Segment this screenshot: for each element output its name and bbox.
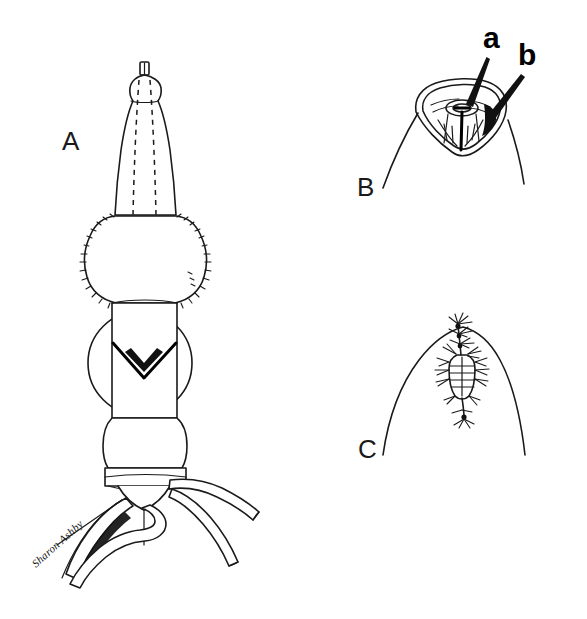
illustration-canvas: Sharon Ashby A (0, 0, 587, 619)
figure-plate: Sharon Ashby A (0, 0, 587, 619)
panel-a-drawing: Sharon Ashby A (29, 62, 259, 588)
apical-tip (140, 62, 149, 75)
leader-line-b (489, 74, 525, 119)
apex-wall-left (383, 113, 418, 188)
callout-leaders (466, 57, 525, 119)
panel-c-drawing: C (358, 313, 525, 464)
panel-letter-a: A (62, 126, 80, 156)
head-capsule (115, 75, 176, 215)
callout-label-a: a (483, 21, 500, 54)
attached-organism (435, 313, 489, 428)
villous-midbody (80, 214, 211, 308)
panel-letter-c: C (358, 434, 377, 464)
panel-b-drawing: a b B (357, 21, 536, 202)
apex-outline-c (383, 327, 525, 455)
organism-posterior (461, 398, 466, 420)
lower-body-segment (103, 418, 187, 468)
panel-letter-b: B (357, 172, 374, 202)
tail-cylinder-upper (112, 300, 177, 418)
callout-label-b: b (518, 38, 536, 71)
apex-wall-right (508, 120, 524, 184)
